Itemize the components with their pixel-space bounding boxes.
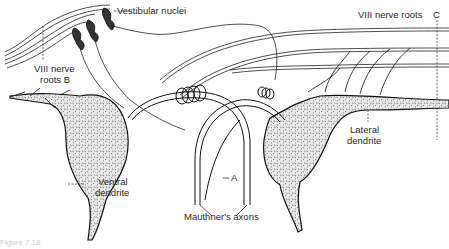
label-mauthners-axons: Mauthner's axons (184, 211, 259, 222)
label-ventral-dendrite-line2: dendrite (95, 187, 129, 198)
left-mauthner-cell (10, 88, 128, 240)
label-lateral-dendrite-line1: Lateral (350, 124, 379, 135)
label-viii-nerve-roots-c: VIII nerve roots (358, 9, 422, 20)
mauthner-axons (128, 92, 285, 205)
label-c-marker: C (433, 9, 440, 20)
label-viii-nerve-roots-b-line2: roots B (40, 74, 70, 85)
spiral-endings (176, 85, 274, 104)
label-vestibular-nuclei: Vestibular nuclei (117, 5, 186, 16)
figure-caption: Figure 7.18 (0, 238, 40, 247)
label-a-marker: A (231, 172, 237, 183)
viii-nerve-roots-c (160, 28, 449, 98)
label-viii-nerve-roots-b-line1: VIII nerve (34, 63, 75, 74)
right-mauthner-cell (264, 95, 449, 232)
label-lateral-dendrite-line2: dendrite (347, 135, 381, 146)
label-ventral-dendrite-line1: Ventral (98, 176, 128, 187)
